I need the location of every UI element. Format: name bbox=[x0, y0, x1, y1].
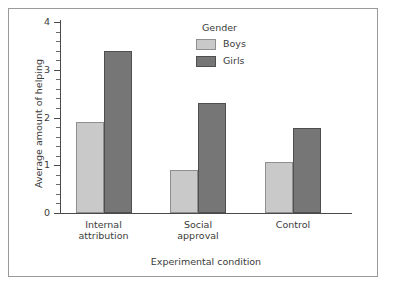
x-tick-label-line: Social bbox=[148, 219, 248, 230]
legend-label: Girls bbox=[223, 56, 245, 66]
y-tick-label: 2 bbox=[32, 113, 50, 123]
bar-girls-social-approval[interactable] bbox=[198, 103, 226, 213]
x-tick-label-line: attribution bbox=[54, 230, 154, 241]
x-axis-line bbox=[60, 213, 352, 214]
legend-label: Boys bbox=[223, 39, 246, 49]
x-tick-label-line: Control bbox=[243, 219, 343, 230]
y-tick-label: 1 bbox=[32, 160, 50, 170]
bar-girls-control[interactable] bbox=[293, 128, 321, 213]
legend-entry-girls[interactable]: Girls bbox=[196, 54, 292, 68]
legend-title: Gender bbox=[202, 22, 292, 33]
legend: Gender BoysGirls bbox=[196, 22, 292, 71]
bar-boys-internal-attribution[interactable] bbox=[76, 122, 104, 213]
x-axis-title: Experimental condition bbox=[60, 256, 352, 267]
y-tick-major bbox=[54, 213, 60, 214]
legend-swatch-boys bbox=[196, 39, 216, 50]
y-tick-label: 0 bbox=[32, 208, 50, 218]
legend-entry-boys[interactable]: Boys bbox=[196, 37, 292, 51]
x-tick-label: Internalattribution bbox=[54, 219, 154, 241]
bar-group bbox=[76, 22, 132, 213]
figure: Average amount of helping 01234 Internal… bbox=[0, 0, 393, 287]
bar-boys-social-approval[interactable] bbox=[170, 170, 198, 213]
x-tick-label: Control bbox=[243, 219, 343, 230]
x-tick-label: Socialapproval bbox=[148, 219, 248, 241]
legend-swatch-girls bbox=[196, 56, 216, 67]
y-tick-label: 3 bbox=[32, 65, 50, 75]
y-tick-label: 4 bbox=[32, 17, 50, 27]
x-tick-label-line: approval bbox=[148, 230, 248, 241]
x-tick-label-line: Internal bbox=[54, 219, 154, 230]
bar-boys-control[interactable] bbox=[265, 162, 293, 213]
bar-girls-internal-attribution[interactable] bbox=[104, 51, 132, 213]
legend-entries: BoysGirls bbox=[196, 37, 292, 68]
y-axis-tick-labels: 01234 bbox=[0, 0, 52, 287]
